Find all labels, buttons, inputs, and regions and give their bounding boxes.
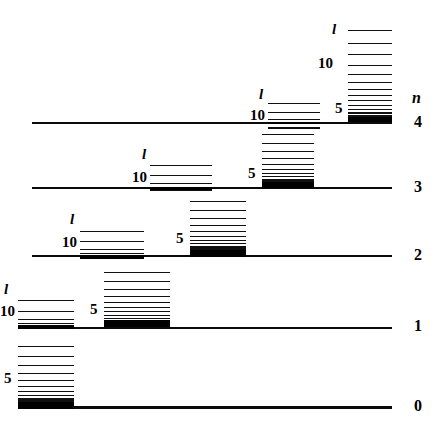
label-l-value-10: 10 xyxy=(250,108,265,123)
sublevel-rung xyxy=(150,183,212,184)
axis-label-n: n xyxy=(412,90,421,106)
axis-tick-n-0: 0 xyxy=(414,398,422,414)
sublevel-rung xyxy=(18,373,74,374)
sublevel-rung xyxy=(268,112,320,113)
sublevel-rung xyxy=(190,243,246,244)
axis-tick-n-1: 1 xyxy=(414,318,422,334)
sublevel-rung xyxy=(190,231,246,232)
axis-tick-n-3: 3 xyxy=(414,179,422,195)
sublevel-rung xyxy=(18,311,74,312)
sublevel-rung xyxy=(190,236,246,237)
sublevel-convergence-band xyxy=(104,320,170,327)
sublevel-rung xyxy=(348,112,392,114)
sublevel-rung xyxy=(262,173,314,174)
energy-level-diagram: 5l105l105l105l10l105n43210 xyxy=(0,0,439,431)
sublevel-rung xyxy=(18,319,74,320)
sublevel-rung xyxy=(348,95,392,96)
sublevel-rung xyxy=(190,225,246,226)
sublevel-convergence-band xyxy=(348,117,392,122)
label-l-value-5: 5 xyxy=(90,302,98,317)
sublevel-rung xyxy=(104,289,170,290)
sublevel-rung xyxy=(150,165,212,166)
sublevel-convergence-band xyxy=(268,122,320,124)
sublevel-rung xyxy=(348,74,392,75)
sublevel-rung xyxy=(262,143,314,144)
sublevel-rung xyxy=(190,201,246,202)
sublevel-rung xyxy=(262,164,314,165)
label-l-value-5: 5 xyxy=(176,231,184,246)
sublevel-rung xyxy=(104,296,170,297)
sublevel-rung xyxy=(18,380,74,381)
sublevel-rung xyxy=(262,134,314,135)
sublevel-convergence-band xyxy=(18,402,74,409)
sublevel-rung xyxy=(104,307,170,308)
label-l-value-10: 10 xyxy=(62,235,77,250)
label-l-symbol: l xyxy=(142,147,146,162)
baseline-n4 xyxy=(32,122,392,124)
sublevel-rung xyxy=(80,231,144,232)
sublevel-rung xyxy=(190,240,246,241)
sublevel-rung xyxy=(18,395,74,396)
sublevel-convergence-band xyxy=(150,187,212,190)
sublevel-rung xyxy=(348,100,392,101)
label-l-symbol: l xyxy=(332,22,336,37)
axis-tick-n-4: 4 xyxy=(414,114,422,130)
sublevel-rung xyxy=(190,218,246,219)
label-l-symbol: l xyxy=(70,212,74,227)
sublevel-rung xyxy=(18,346,74,347)
baseline-n3 xyxy=(32,187,392,189)
sublevel-rung xyxy=(80,249,144,250)
sublevel-rung xyxy=(268,127,320,129)
sublevel-rung xyxy=(104,315,170,316)
baseline-n1 xyxy=(32,327,392,329)
sublevel-rung xyxy=(348,82,392,83)
label-l-value-5: 5 xyxy=(248,166,256,181)
sublevel-rung xyxy=(262,158,314,159)
sublevel-rung xyxy=(104,272,170,273)
sublevel-rung xyxy=(262,176,314,177)
label-l-value-10: 10 xyxy=(0,304,15,319)
sublevel-rung xyxy=(18,365,74,366)
label-l-value-10: 10 xyxy=(318,56,333,71)
sublevel-rung xyxy=(348,65,392,66)
sublevel-rung xyxy=(348,89,392,90)
sublevel-rung xyxy=(268,103,320,104)
sublevel-rung xyxy=(348,105,392,106)
sublevel-rung xyxy=(104,311,170,312)
sublevel-rung xyxy=(80,241,144,242)
axis-tick-n-2: 2 xyxy=(414,247,422,263)
sublevel-rung xyxy=(348,43,392,44)
sublevel-rung xyxy=(348,30,392,31)
sublevel-rung xyxy=(262,151,314,152)
sublevel-rung xyxy=(18,356,74,357)
sublevel-rung xyxy=(104,302,170,303)
label-l-symbol: l xyxy=(4,282,8,297)
sublevel-convergence-band xyxy=(262,182,314,188)
sublevel-rung xyxy=(18,386,74,387)
label-l-value-10: 10 xyxy=(132,170,147,185)
label-l-value-5: 5 xyxy=(335,101,343,116)
label-l-value-5: 5 xyxy=(4,371,12,386)
sublevel-rung xyxy=(268,119,320,120)
sublevel-rung xyxy=(190,210,246,211)
sublevel-rung xyxy=(348,109,392,110)
sublevel-rung xyxy=(104,281,170,282)
sublevel-rung xyxy=(348,54,392,55)
sublevel-convergence-band xyxy=(80,255,144,259)
sublevel-rung xyxy=(18,391,74,392)
label-l-symbol: l xyxy=(259,87,263,102)
sublevel-convergence-band xyxy=(18,325,74,329)
sublevel-rung xyxy=(150,175,212,176)
sublevel-convergence-band xyxy=(190,250,246,257)
sublevel-rung xyxy=(18,300,74,301)
baseline-n0 xyxy=(18,406,392,409)
sublevel-rung xyxy=(262,169,314,170)
